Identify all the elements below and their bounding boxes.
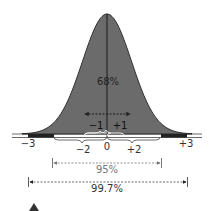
left-tail [28,134,54,138]
label-95: 95% [96,165,118,175]
label-zero: 0 [104,142,110,152]
bell-curve-chart [0,0,213,211]
label-plus3: +3 [179,139,194,149]
brace-plus1 [107,133,125,136]
label-plus1: +1 [113,121,128,131]
label-997: 99.7% [91,184,123,194]
right-tail [161,134,187,138]
triangle-icon [29,203,39,211]
label-minus1: −1 [89,121,104,131]
label-68: 68% [97,77,119,87]
label-plus2: +2 [127,145,142,155]
label-minus3: −3 [21,139,36,149]
label-minus2: −2 [76,145,91,155]
